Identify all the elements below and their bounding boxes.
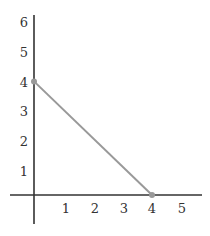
x-tick-label: 4 [148, 201, 156, 216]
y-tick-label: 6 [20, 15, 28, 30]
x-tick-labels: 1 2 3 4 5 [62, 201, 186, 216]
x-tick-label: 1 [62, 201, 70, 216]
y-tick-label: 1 [20, 164, 28, 179]
line-chart: 6 5 4 3 2 1 1 2 3 4 5 [0, 0, 210, 236]
y-tick-labels: 6 5 4 3 2 1 [20, 15, 28, 179]
y-tick-label: 2 [20, 134, 28, 149]
data-point-marker [31, 78, 37, 84]
y-tick-label: 4 [20, 75, 28, 90]
x-tick-label: 5 [178, 201, 186, 216]
y-tick-label: 5 [20, 45, 28, 60]
data-point-marker [149, 192, 155, 198]
x-tick-label: 3 [120, 201, 128, 216]
data-line [34, 81, 152, 195]
x-tick-label: 2 [91, 201, 99, 216]
y-tick-label: 3 [20, 104, 28, 119]
series-layer [31, 78, 155, 198]
